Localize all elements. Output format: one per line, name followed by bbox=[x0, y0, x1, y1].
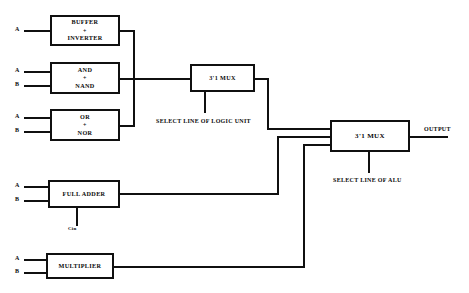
wire-input-and-a bbox=[24, 71, 50, 73]
wire-input-buffer-a bbox=[24, 30, 50, 32]
wire-input-and-b bbox=[24, 85, 50, 87]
block-full-adder[interactable]: FULL ADDER bbox=[48, 180, 120, 208]
block-alu-mux-label: 3'1 MUX bbox=[355, 131, 385, 141]
block-full-adder-label: FULL ADDER bbox=[63, 190, 106, 199]
block-or-nor-line2: NOR bbox=[78, 129, 93, 138]
wire-logicmux-to-alumux bbox=[267, 128, 330, 130]
wire-input-or-b bbox=[24, 131, 50, 133]
block-logic-mux[interactable]: 3'1 MUX bbox=[190, 64, 255, 92]
block-and-nand-plus: + bbox=[83, 75, 87, 81]
port-label-mult-a: A bbox=[15, 255, 20, 261]
wire-alu-output bbox=[410, 136, 448, 138]
port-label-output: OUTPUT bbox=[424, 126, 451, 132]
block-logic-mux-label: 3'1 MUX bbox=[209, 74, 236, 83]
wire-input-or-a bbox=[24, 117, 50, 119]
wire-and-out bbox=[120, 78, 190, 80]
wire-adder-to-alumux bbox=[277, 136, 330, 138]
wire-adder-out bbox=[120, 193, 279, 195]
block-buffer-inverter-line1: BUFFER bbox=[72, 18, 99, 27]
block-or-nor-plus: + bbox=[83, 122, 87, 128]
wire-logic-bus-vertical bbox=[133, 30, 135, 127]
block-buffer-inverter[interactable]: BUFFER + INVERTER bbox=[50, 15, 120, 46]
port-label-and-b: B bbox=[15, 81, 19, 87]
wire-logicmux-drop bbox=[267, 78, 269, 130]
alu-block-diagram: BUFFER + INVERTER AND + NAND OR + NOR FU… bbox=[0, 0, 469, 293]
block-buffer-inverter-line2: INVERTER bbox=[67, 34, 102, 43]
port-label-adder-a: A bbox=[15, 182, 20, 188]
block-and-nand-line2: NAND bbox=[75, 82, 94, 91]
port-label-adder-b: B bbox=[15, 196, 19, 202]
wire-input-adder-a bbox=[24, 186, 48, 188]
block-or-nor-line1: OR bbox=[80, 113, 90, 122]
wire-input-adder-b bbox=[24, 200, 48, 202]
wire-adder-cin-line bbox=[76, 208, 78, 226]
block-buffer-inverter-plus: + bbox=[83, 28, 87, 34]
port-label-mult-b: B bbox=[15, 268, 19, 274]
wire-mult-out bbox=[114, 266, 305, 268]
port-label-adder-cin: Cin bbox=[68, 226, 76, 231]
port-label-buffer-a: A bbox=[15, 26, 20, 32]
block-and-nand[interactable]: AND + NAND bbox=[50, 62, 120, 94]
wire-alu-select-line bbox=[368, 152, 370, 173]
wire-logic-select-line bbox=[204, 92, 206, 113]
block-and-nand-line1: AND bbox=[78, 66, 92, 75]
wire-mult-rise bbox=[303, 144, 305, 268]
block-or-nor[interactable]: OR + NOR bbox=[50, 109, 120, 141]
wire-adder-rise bbox=[277, 136, 279, 195]
port-label-and-a: A bbox=[15, 67, 20, 73]
wire-mult-to-alumux bbox=[303, 144, 330, 146]
block-alu-mux[interactable]: 3'1 MUX bbox=[330, 120, 410, 152]
port-label-or-b: B bbox=[15, 127, 19, 133]
wire-input-mult-b bbox=[24, 272, 46, 274]
wire-input-mult-a bbox=[24, 259, 46, 261]
caption-logic-select-line: SELECT LINE OF LOGIC UNIT bbox=[156, 118, 251, 124]
block-multiplier[interactable]: MULTIPLIER bbox=[46, 253, 114, 279]
block-multiplier-label: MULTIPLIER bbox=[59, 262, 102, 271]
port-label-or-a: A bbox=[15, 113, 20, 119]
caption-alu-select-line: SELECT LINE OF ALU bbox=[333, 177, 402, 183]
